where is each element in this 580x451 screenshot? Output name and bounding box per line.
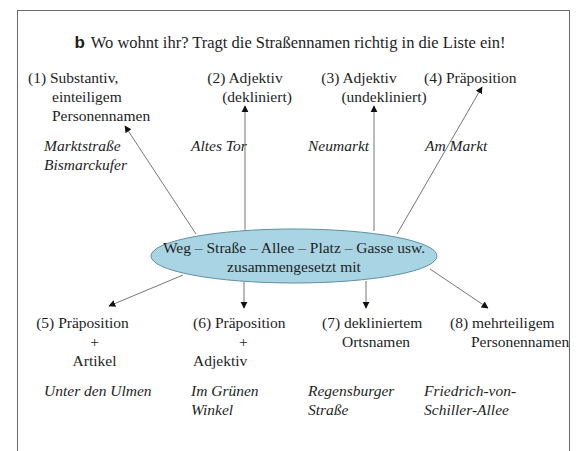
category-line: Präposition — [215, 314, 286, 331]
category-line: Artikel — [30, 351, 135, 370]
category-line: einteiligem — [28, 87, 150, 106]
arrow-8 — [430, 269, 488, 308]
example-street: Schiller-Allee — [424, 400, 516, 419]
category-line: dekliniertem — [344, 314, 422, 331]
example-street: Neumarkt — [308, 136, 369, 155]
example-street: Am Markt — [425, 136, 487, 155]
category-line: (undekliniert) — [292, 87, 452, 106]
category-line: Substantiv, — [50, 69, 118, 86]
arrow-1 — [125, 126, 196, 234]
category-number: (6) — [193, 314, 211, 331]
category-line: Personennamen — [28, 106, 150, 125]
category-line: Adjektiv — [193, 351, 286, 370]
category-8-label: (8) mehrteiligem Personennamen — [450, 313, 569, 351]
category-1-examples: Marktstraße Bismarckufer — [44, 136, 127, 174]
category-4-label: (4) Präposition — [424, 68, 517, 87]
category-line: Präposition — [58, 314, 129, 331]
category-6-examples: Im Grünen Winkel — [191, 381, 259, 419]
category-7-label: (7) dekliniertem Ortsnamen — [322, 313, 422, 351]
category-7-examples: Regensburger Straße — [308, 381, 394, 419]
category-line: + — [30, 332, 135, 351]
category-line: Adjektiv — [342, 69, 396, 86]
category-line: Personennamen — [450, 332, 569, 351]
example-street: Im Grünen — [191, 381, 259, 400]
category-line: mehrteiligem — [472, 314, 555, 331]
category-line: + — [193, 332, 286, 351]
category-number: (8) — [450, 314, 468, 331]
category-5-examples: Unter den Ulmen — [44, 381, 152, 400]
category-number: (3) — [321, 69, 339, 86]
arrow-5 — [109, 275, 183, 306]
category-number: (2) — [207, 69, 225, 86]
category-3-examples: Neumarkt — [308, 136, 369, 155]
category-line: Ortsnamen — [322, 332, 422, 351]
example-street: Winkel — [191, 400, 259, 419]
category-2-examples: Altes Tor — [191, 136, 247, 155]
example-street: Altes Tor — [191, 136, 247, 155]
center-text: Weg – Straße – Allee – Platz – Gasse usw… — [150, 238, 438, 276]
center-line-2: zusammengesetzt mit — [150, 257, 438, 276]
example-street: Unter den Ulmen — [44, 381, 152, 400]
center-line-1: Weg – Straße – Allee – Platz – Gasse usw… — [150, 238, 438, 257]
category-number: (5) — [36, 314, 54, 331]
category-4-examples: Am Markt — [425, 136, 487, 155]
example-street: Marktstraße — [44, 136, 127, 155]
category-5-label: (5) Präposition + Artikel — [30, 313, 135, 370]
category-number: (7) — [322, 314, 340, 331]
category-line: Präposition — [446, 69, 517, 86]
category-8-examples: Friedrich-von- Schiller-Allee — [424, 381, 516, 419]
category-1-label: (1) Substantiv, einteiligem Personenname… — [28, 68, 150, 125]
example-street: Straße — [308, 400, 394, 419]
example-street: Friedrich-von- — [424, 381, 516, 400]
arrow-4 — [397, 87, 482, 234]
category-number: (1) — [28, 69, 46, 86]
example-street: Bismarckufer — [44, 155, 127, 174]
category-6-label: (6) Präposition + Adjektiv — [193, 313, 286, 370]
category-number: (4) — [424, 69, 442, 86]
example-street: Regensburger — [308, 381, 394, 400]
